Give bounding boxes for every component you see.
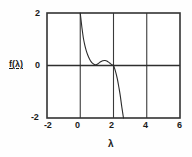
x-tick-label-minus2: -2 <box>44 120 52 130</box>
y-tick-label-2: 2 <box>35 8 40 18</box>
x-tick-label-2: 2 <box>109 120 114 130</box>
y-axis-title: f(λ) <box>9 59 23 69</box>
x-tick-label-0: 0 <box>75 120 80 130</box>
y-tick-label-0: 0 <box>35 60 40 70</box>
figure-container: 2 0 -2 -2 0 2 4 6 f(λ) λ <box>0 0 192 157</box>
y-tick-label-minus2: -2 <box>31 112 39 122</box>
x-tick-label-4: 4 <box>143 120 148 130</box>
x-axis-title: λ <box>108 138 114 149</box>
plot-canvas <box>0 0 192 157</box>
x-tick-label-6: 6 <box>177 120 182 130</box>
